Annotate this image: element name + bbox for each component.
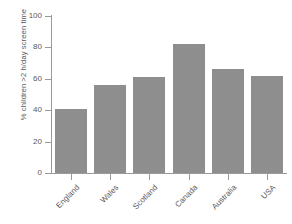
bar (94, 85, 126, 173)
bar (212, 69, 244, 173)
y-axis-line (51, 15, 52, 174)
x-axis-tick (228, 174, 229, 180)
y-axis-tick (45, 173, 51, 174)
x-axis-tick (267, 174, 268, 180)
y-axis-tick (45, 79, 51, 80)
y-axis-tick (45, 142, 51, 143)
y-axis-tick (45, 110, 51, 111)
y-axis-tick (45, 47, 51, 48)
y-axis-tick-label: 0 (0, 168, 42, 177)
y-axis-tick-label: 60 (0, 73, 42, 82)
y-axis-tick-label: 40 (0, 105, 42, 114)
x-axis-tick (110, 174, 111, 180)
bar (173, 44, 205, 173)
bar (133, 77, 165, 173)
bar (251, 76, 283, 173)
y-axis-tick-label: 20 (0, 136, 42, 145)
bar-chart: % children >2 h/day screen time 02040608… (0, 0, 292, 224)
x-axis-tick (189, 174, 190, 180)
x-axis-tick (149, 174, 150, 180)
bar (55, 109, 87, 173)
y-axis-tick-label: 100 (0, 11, 42, 20)
x-axis-tick (71, 174, 72, 180)
y-axis-tick-label: 80 (0, 42, 42, 51)
x-axis-line (51, 173, 287, 174)
y-axis-tick (45, 16, 51, 17)
x-axis-label: England (18, 183, 81, 224)
